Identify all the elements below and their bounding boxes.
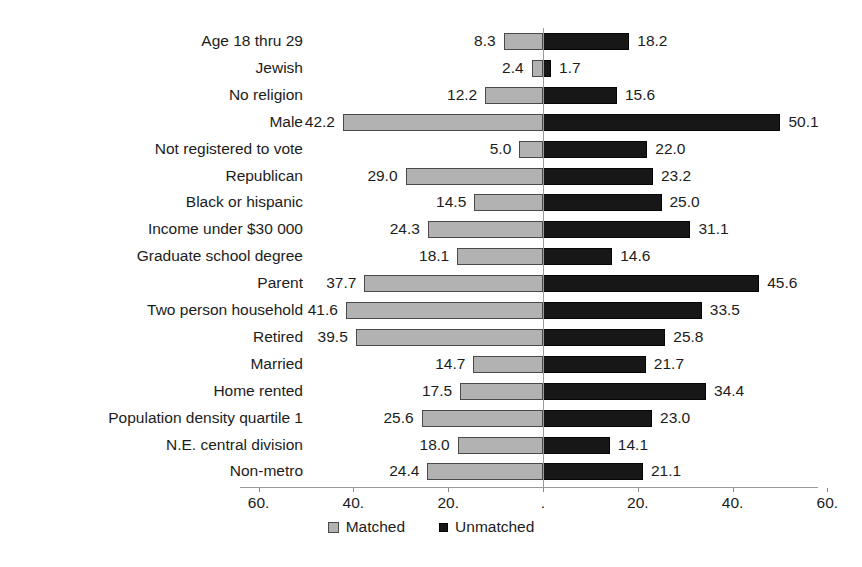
axis-tick-label: 40. bbox=[343, 494, 365, 512]
bar-matched[interactable] bbox=[428, 221, 543, 238]
bar-unmatched[interactable] bbox=[543, 356, 646, 373]
value-label-matched: 14.5 bbox=[436, 189, 466, 216]
category-label: Parent bbox=[0, 270, 303, 297]
axis-tick-label: 20. bbox=[627, 494, 649, 512]
value-label-unmatched: 34.4 bbox=[714, 378, 744, 405]
bar-matched[interactable] bbox=[474, 194, 543, 211]
bar-matched[interactable] bbox=[422, 410, 543, 427]
category-label: Jewish bbox=[0, 55, 303, 82]
category-label: Age 18 thru 29 bbox=[0, 28, 303, 55]
bar-matched[interactable] bbox=[364, 275, 543, 292]
bar-matched[interactable] bbox=[473, 356, 543, 373]
value-label-unmatched: 31.1 bbox=[698, 216, 728, 243]
value-label-unmatched: 21.7 bbox=[654, 351, 684, 378]
baseline-axis-right bbox=[543, 487, 818, 488]
legend-item-matched[interactable]: Matched bbox=[328, 518, 405, 536]
bar-matched[interactable] bbox=[346, 302, 543, 319]
value-label-matched: 8.3 bbox=[474, 28, 496, 55]
matched-swatch-icon bbox=[328, 522, 339, 533]
baseline-axis-left bbox=[240, 487, 543, 488]
bar-unmatched[interactable] bbox=[543, 168, 653, 185]
legend-label-unmatched: Unmatched bbox=[455, 518, 534, 536]
bar-unmatched[interactable] bbox=[543, 275, 759, 292]
category-label: Graduate school degree bbox=[0, 243, 303, 270]
chart-row: Not registered to vote5.022.0 bbox=[0, 136, 862, 163]
value-label-matched: 25.6 bbox=[383, 405, 413, 432]
chart-row: Home rented17.534.4 bbox=[0, 378, 862, 405]
value-label-matched: 41.6 bbox=[308, 297, 338, 324]
bar-matched[interactable] bbox=[427, 463, 543, 480]
bar-unmatched[interactable] bbox=[543, 329, 665, 346]
bar-matched[interactable] bbox=[532, 60, 543, 77]
chart-row: No religion12.215.6 bbox=[0, 82, 862, 109]
value-label-unmatched: 21.1 bbox=[651, 458, 681, 485]
category-label: Not registered to vote bbox=[0, 136, 303, 163]
axis-tick-mark bbox=[638, 488, 639, 492]
chart-row: N.E. central division18.014.1 bbox=[0, 432, 862, 459]
bar-matched[interactable] bbox=[504, 33, 543, 50]
value-label-matched: 42.2 bbox=[305, 109, 335, 136]
axis-tick-label: 20. bbox=[437, 494, 459, 512]
bar-matched[interactable] bbox=[457, 248, 543, 265]
bar-unmatched[interactable] bbox=[543, 87, 617, 104]
bar-unmatched[interactable] bbox=[543, 410, 652, 427]
bar-unmatched[interactable] bbox=[543, 141, 647, 158]
bar-matched[interactable] bbox=[406, 168, 543, 185]
bar-unmatched[interactable] bbox=[543, 33, 629, 50]
bar-unmatched[interactable] bbox=[543, 383, 706, 400]
chart-row: Non-metro24.421.1 bbox=[0, 458, 862, 485]
value-label-unmatched: 50.1 bbox=[788, 109, 818, 136]
bar-unmatched[interactable] bbox=[543, 437, 610, 454]
bar-unmatched[interactable] bbox=[543, 302, 702, 319]
axis-tick-label: 60. bbox=[817, 494, 839, 512]
bar-unmatched[interactable] bbox=[543, 221, 690, 238]
value-label-matched: 18.0 bbox=[420, 432, 450, 459]
category-label: N.E. central division bbox=[0, 432, 303, 459]
chart-row: Married14.721.7 bbox=[0, 351, 862, 378]
chart-row: Retired39.525.8 bbox=[0, 324, 862, 351]
center-axis-line bbox=[543, 28, 544, 487]
value-label-matched: 29.0 bbox=[367, 163, 397, 190]
diverging-bar-chart: Age 18 thru 298.318.2Jewish2.41.7No reli… bbox=[0, 0, 862, 567]
bar-unmatched[interactable] bbox=[543, 248, 612, 265]
value-label-matched: 24.4 bbox=[389, 458, 419, 485]
chart-legend: Matched Unmatched bbox=[0, 518, 862, 536]
bar-matched[interactable] bbox=[343, 114, 543, 131]
bar-unmatched[interactable] bbox=[543, 463, 643, 480]
category-label: Black or hispanic bbox=[0, 189, 303, 216]
value-label-matched: 24.3 bbox=[390, 216, 420, 243]
chart-row: Parent37.745.6 bbox=[0, 270, 862, 297]
axis-tick-mark bbox=[733, 488, 734, 492]
value-label-matched: 18.1 bbox=[419, 243, 449, 270]
chart-row: Graduate school degree18.114.6 bbox=[0, 243, 862, 270]
value-label-unmatched: 23.0 bbox=[660, 405, 690, 432]
category-label: Two person household bbox=[0, 297, 303, 324]
unmatched-swatch-icon bbox=[439, 523, 448, 532]
axis-tick-label: 40. bbox=[722, 494, 744, 512]
category-label: Male bbox=[0, 109, 303, 136]
bar-unmatched[interactable] bbox=[543, 114, 780, 131]
value-label-unmatched: 22.0 bbox=[655, 136, 685, 163]
value-label-unmatched: 23.2 bbox=[661, 163, 691, 190]
category-label: Republican bbox=[0, 163, 303, 190]
value-label-matched: 14.7 bbox=[435, 351, 465, 378]
value-label-unmatched: 25.0 bbox=[670, 189, 700, 216]
value-label-matched: 37.7 bbox=[326, 270, 356, 297]
value-label-unmatched: 33.5 bbox=[710, 297, 740, 324]
bar-matched[interactable] bbox=[485, 87, 543, 104]
value-label-unmatched: 1.7 bbox=[559, 55, 581, 82]
chart-row: Black or hispanic14.525.0 bbox=[0, 189, 862, 216]
axis-tick-mark bbox=[827, 488, 828, 492]
bar-matched[interactable] bbox=[356, 329, 543, 346]
bar-unmatched[interactable] bbox=[543, 60, 551, 77]
bar-unmatched[interactable] bbox=[543, 194, 662, 211]
bar-matched[interactable] bbox=[460, 383, 543, 400]
legend-item-unmatched[interactable]: Unmatched bbox=[439, 518, 534, 536]
axis-tick-mark bbox=[353, 488, 354, 492]
bar-matched[interactable] bbox=[519, 141, 543, 158]
bar-matched[interactable] bbox=[458, 437, 543, 454]
category-label: Married bbox=[0, 351, 303, 378]
value-label-unmatched: 45.6 bbox=[767, 270, 797, 297]
chart-row: Two person household41.633.5 bbox=[0, 297, 862, 324]
value-label-matched: 12.2 bbox=[447, 82, 477, 109]
